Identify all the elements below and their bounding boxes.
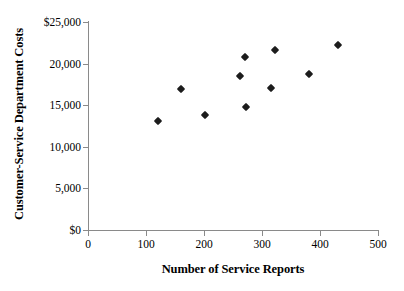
y-axis-tick (83, 22, 88, 23)
y-axis-tick-label: 5,000 (3, 182, 81, 194)
y-axis-tick-label: $25,000 (3, 16, 81, 28)
x-axis-tick (204, 231, 205, 236)
y-axis-tick (83, 147, 88, 148)
x-axis-tick-label: 300 (242, 238, 282, 251)
x-axis-tick (320, 231, 321, 236)
x-axis-line (88, 230, 379, 231)
y-axis-tick-label: $0 (3, 224, 81, 236)
x-axis-tick (262, 231, 263, 236)
x-axis-tick-label: 0 (68, 238, 108, 251)
y-axis-tick (83, 188, 88, 189)
x-axis-tick-label: 200 (184, 238, 224, 251)
x-axis-tick (88, 231, 89, 236)
y-axis-tick (83, 64, 88, 65)
x-axis-tick-label: 100 (126, 238, 166, 251)
x-axis-tick-label: 500 (358, 238, 398, 251)
y-axis-tick-label: 20,000 (3, 58, 81, 70)
x-axis-tick (146, 231, 147, 236)
x-axis-tick-label: 400 (300, 238, 340, 251)
y-axis-tick (83, 105, 88, 106)
x-axis-title: Number of Service Reports (88, 262, 378, 277)
y-axis-tick-label: 10,000 (3, 141, 81, 153)
scatter-chart: Customer-Service Department Costs $05,00… (0, 0, 404, 291)
x-axis-tick (378, 231, 379, 236)
chart-title (88, 0, 378, 6)
plot-area (88, 22, 378, 230)
y-axis-tick-label: 15,000 (3, 99, 81, 111)
